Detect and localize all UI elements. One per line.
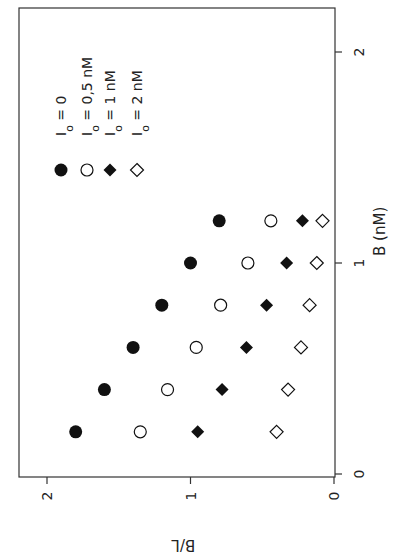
filled-diamond-marker <box>260 299 273 312</box>
open-diamond-marker <box>131 164 144 177</box>
series-filled-circle <box>69 214 226 438</box>
filled-diamond-marker <box>240 341 253 354</box>
legend-item: Io = 1 nM <box>102 70 125 176</box>
filled-circle-marker <box>55 164 68 177</box>
open-circle-marker <box>190 341 202 353</box>
series-open-diamond <box>270 214 329 438</box>
open-diamond-marker <box>282 383 295 396</box>
filled-diamond-marker <box>104 164 117 177</box>
scatter-plot: 012012 Io = 0Io = 0,5 nMIo = 1 nMIo = 2 … <box>0 0 407 560</box>
filled-circle-marker <box>127 341 140 354</box>
legend-label: Io = 0 <box>53 96 76 136</box>
legend-label: Io = 1 nM <box>102 70 125 136</box>
open-circle-marker <box>162 384 174 396</box>
filled-diamond-marker <box>216 383 229 396</box>
open-diamond-marker <box>303 299 316 312</box>
open-circle-marker <box>81 164 93 176</box>
open-circle-marker <box>242 257 254 269</box>
legend-label: Io = 0,5 nM <box>79 57 102 136</box>
scatchard-plot-figure: 012012 Io = 0Io = 0,5 nMIo = 1 nMIo = 2 … <box>0 0 407 560</box>
bl-axis-tick-label: 1 <box>183 492 199 501</box>
open-diamond-marker <box>270 425 283 438</box>
open-circle-marker <box>265 215 277 227</box>
filled-circle-marker <box>213 214 226 227</box>
open-diamond-marker <box>294 341 307 354</box>
open-diamond-marker <box>310 257 323 270</box>
b-axis-tick-label: 2 <box>351 48 367 57</box>
filled-circle-marker <box>155 299 168 312</box>
legend-item: Io = 0 <box>53 96 76 177</box>
data-points <box>69 214 329 438</box>
series-open-circle <box>134 215 277 438</box>
legend-item: Io = 2 nM <box>129 70 152 176</box>
legend-label: Io = 2 nM <box>129 70 152 136</box>
open-circle-marker <box>134 426 146 438</box>
legend-item: Io = 0,5 nM <box>79 57 102 176</box>
b-axis-tick-label: 1 <box>351 259 367 268</box>
filled-diamond-marker <box>191 425 204 438</box>
filled-circle-marker <box>98 383 111 396</box>
plot-border <box>19 8 335 477</box>
open-diamond-marker <box>316 214 329 227</box>
plot-frame <box>19 8 335 477</box>
filled-diamond-marker <box>296 214 309 227</box>
legend: Io = 0Io = 0,5 nMIo = 1 nMIo = 2 nM <box>53 57 152 177</box>
filled-circle-marker <box>69 425 82 438</box>
filled-circle-marker <box>184 257 197 270</box>
b-axis-title: B (nM) <box>371 207 389 256</box>
bl-axis-title: B/L <box>171 536 195 554</box>
filled-diamond-marker <box>280 257 293 270</box>
b-axis-tick-label: 0 <box>351 470 367 479</box>
open-circle-marker <box>215 299 227 311</box>
bl-axis-tick-label: 2 <box>39 492 55 501</box>
series-filled-diamond <box>191 214 309 438</box>
bl-axis-tick-label: 0 <box>326 492 342 501</box>
